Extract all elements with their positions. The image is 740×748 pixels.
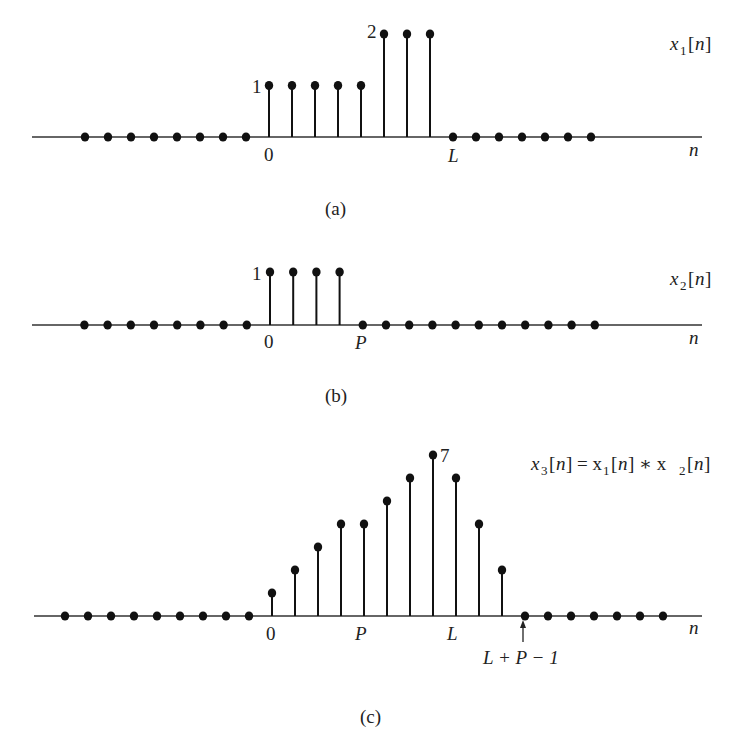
svg-text:[: [ bbox=[687, 453, 693, 474]
stem-marker bbox=[636, 611, 644, 620]
stem-marker bbox=[406, 473, 414, 482]
stem-marker bbox=[613, 611, 621, 620]
stem-marker bbox=[591, 320, 599, 329]
stem-marker bbox=[429, 450, 437, 459]
caption-a: (a) bbox=[325, 198, 346, 220]
tick-label-L: L bbox=[447, 145, 459, 166]
stem-marker bbox=[359, 320, 367, 329]
svg-text:]: ] bbox=[705, 33, 711, 54]
stem-marker bbox=[199, 611, 207, 620]
stem-marker bbox=[382, 320, 390, 329]
stem-marker bbox=[107, 611, 115, 620]
stem-marker bbox=[150, 320, 158, 329]
stem-marker bbox=[61, 611, 69, 620]
stem-marker bbox=[196, 132, 204, 141]
value-label-7: 7 bbox=[440, 445, 450, 466]
stem-marker bbox=[541, 132, 549, 141]
stem-marker bbox=[567, 320, 575, 329]
stem-marker bbox=[521, 320, 529, 329]
tick-label-0: 0 bbox=[264, 331, 274, 352]
stem-marker bbox=[449, 132, 457, 141]
stem-marker bbox=[266, 267, 274, 276]
stem-marker bbox=[521, 611, 529, 620]
stem-marker bbox=[472, 132, 480, 141]
svg-text:n: n bbox=[694, 453, 704, 474]
title-x2: x 2 [ n ] bbox=[669, 268, 711, 293]
value-label-1: 1 bbox=[252, 76, 262, 97]
stem-marker bbox=[498, 565, 506, 574]
stem-marker bbox=[288, 81, 296, 90]
stem-marker bbox=[544, 320, 552, 329]
svg-text:x: x bbox=[669, 268, 679, 289]
caption-c: (c) bbox=[360, 706, 381, 728]
plot-x2 bbox=[32, 267, 702, 329]
stem-marker bbox=[335, 267, 343, 276]
stem-marker bbox=[84, 611, 92, 620]
tick-label-0: 0 bbox=[264, 144, 274, 165]
stem-marker bbox=[428, 320, 436, 329]
svg-text:[: [ bbox=[688, 268, 694, 289]
stem-marker bbox=[289, 267, 297, 276]
stem-marker bbox=[268, 588, 276, 597]
title-x3-equation: x 3 [ n ] = x 1 [ n ] ∗ x 2 [ n ] bbox=[530, 453, 710, 478]
stem-marker bbox=[452, 473, 460, 482]
svg-text:n: n bbox=[618, 453, 628, 474]
stem-marker bbox=[265, 81, 273, 90]
convolution-figure: 1 2 0 L n x 1 [ n ] (a) 1 0 P n x 2 [ n … bbox=[0, 0, 740, 748]
svg-text:n: n bbox=[556, 453, 566, 474]
plot-x1 bbox=[32, 29, 702, 141]
stem-marker bbox=[451, 320, 459, 329]
value-label-1: 1 bbox=[252, 263, 262, 284]
stem-marker bbox=[567, 611, 575, 620]
svg-text:[: [ bbox=[549, 453, 555, 474]
stem-marker bbox=[222, 611, 230, 620]
stem-marker bbox=[219, 132, 227, 141]
stem-marker bbox=[587, 132, 595, 141]
tick-label-L: L bbox=[446, 623, 458, 644]
stem-marker bbox=[544, 611, 552, 620]
stem-marker bbox=[81, 132, 89, 141]
stem-marker bbox=[475, 519, 483, 528]
stem-marker bbox=[103, 320, 111, 329]
stem-marker bbox=[564, 132, 572, 141]
stem-marker bbox=[475, 320, 483, 329]
svg-text:2: 2 bbox=[680, 278, 687, 293]
svg-text:] ∗ x: ] ∗ x bbox=[628, 453, 667, 474]
stem-marker bbox=[357, 81, 365, 90]
tick-label-0: 0 bbox=[266, 623, 276, 644]
svg-text:n: n bbox=[695, 33, 705, 54]
svg-text:] = x: ] = x bbox=[566, 453, 603, 474]
svg-text:[: [ bbox=[611, 453, 617, 474]
svg-text:]: ] bbox=[705, 268, 711, 289]
svg-text:x: x bbox=[530, 453, 540, 474]
stem-marker bbox=[590, 611, 598, 620]
svg-text:n: n bbox=[695, 268, 705, 289]
stem-marker bbox=[245, 611, 253, 620]
tick-label-P: P bbox=[354, 332, 367, 353]
stem-marker bbox=[403, 29, 411, 38]
stem-marker bbox=[360, 519, 368, 528]
stem-marker bbox=[659, 611, 667, 620]
title-x1: x 1 [ n ] bbox=[669, 33, 711, 58]
stem-marker bbox=[196, 320, 204, 329]
stem-marker bbox=[176, 611, 184, 620]
stem-marker bbox=[495, 132, 503, 141]
stem-marker bbox=[312, 267, 320, 276]
stem-marker bbox=[219, 320, 227, 329]
stem-marker bbox=[405, 320, 413, 329]
stem-marker bbox=[127, 320, 135, 329]
stem-marker bbox=[380, 29, 388, 38]
stem-marker bbox=[314, 542, 322, 551]
value-label-2: 2 bbox=[367, 21, 377, 42]
stem-marker bbox=[243, 320, 251, 329]
caption-b: (b) bbox=[325, 385, 347, 407]
stem-marker bbox=[518, 132, 526, 141]
stem-marker bbox=[80, 320, 88, 329]
stem-marker bbox=[291, 565, 299, 574]
stem-marker bbox=[173, 132, 181, 141]
stem-marker bbox=[337, 519, 345, 528]
stem-marker bbox=[311, 81, 319, 90]
axis-label-n: n bbox=[689, 139, 699, 160]
tick-label-P: P bbox=[354, 623, 367, 644]
stem-marker bbox=[127, 132, 135, 141]
